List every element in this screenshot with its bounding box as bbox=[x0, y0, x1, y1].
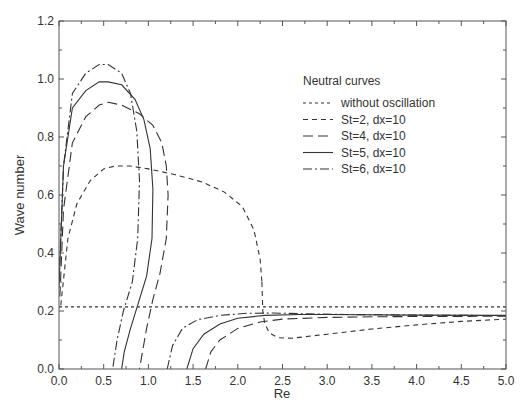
curve-st-5-dx-10-upper bbox=[59, 82, 153, 369]
x-tick-label: 1.5 bbox=[185, 374, 202, 388]
y-tick-label: 1.0 bbox=[37, 72, 54, 86]
x-axis-title: Re bbox=[274, 386, 291, 401]
y-axis-title: Wave number bbox=[12, 154, 27, 235]
curve-st-6-dx-10-upper bbox=[59, 65, 140, 370]
plot-curves bbox=[59, 65, 506, 370]
legend-entry-label: St=2, dx=10 bbox=[341, 113, 406, 127]
curve-st-5-dx-10-lower bbox=[187, 315, 506, 370]
x-tick-label: 4.5 bbox=[453, 374, 470, 388]
y-tick-label: 0.2 bbox=[37, 304, 54, 318]
curve-st-4-dx-10-lower bbox=[206, 316, 506, 369]
y-tick-label: 0.8 bbox=[37, 130, 54, 144]
x-tick-label: 3.0 bbox=[319, 374, 336, 388]
y-tick-label: 0.6 bbox=[37, 188, 54, 202]
curve-st-2-dx-10-lower bbox=[262, 282, 506, 338]
x-tick-label: 0.0 bbox=[51, 374, 68, 388]
x-tick-label: 1.0 bbox=[140, 374, 157, 388]
curve-st-6-dx-10-lower bbox=[167, 313, 506, 369]
legend-entry-label: St=4, dx=10 bbox=[341, 129, 406, 143]
y-axis: 0.00.20.40.60.81.01.2 bbox=[37, 14, 506, 376]
legend-entry-label: St=6, dx=10 bbox=[341, 162, 406, 176]
x-tick-label: 0.5 bbox=[95, 374, 112, 388]
x-axis: 0.00.51.01.52.02.53.03.54.04.55.0 bbox=[51, 21, 515, 388]
y-tick-label: 0.4 bbox=[37, 246, 54, 260]
x-tick-label: 5.0 bbox=[498, 374, 515, 388]
x-tick-label: 4.0 bbox=[408, 374, 425, 388]
legend-title: Neutral curves bbox=[303, 74, 380, 88]
legend: Neutral curves without oscillationSt=2, … bbox=[303, 74, 435, 176]
legend-entry-label: St=5, dx=10 bbox=[341, 146, 406, 160]
legend-entry-label: without oscillation bbox=[340, 96, 435, 110]
x-tick-label: 3.5 bbox=[364, 374, 381, 388]
y-tick-label: 1.2 bbox=[37, 14, 54, 28]
legend-entries: without oscillationSt=2, dx=10St=4, dx=1… bbox=[303, 96, 435, 176]
y-tick-label: 0.0 bbox=[37, 362, 54, 376]
x-tick-label: 2.0 bbox=[229, 374, 246, 388]
curve-st-2-dx-10-upper bbox=[61, 166, 262, 305]
neutral-curves-chart: 0.00.51.01.52.02.53.03.54.04.55.0 0.00.2… bbox=[0, 0, 531, 416]
